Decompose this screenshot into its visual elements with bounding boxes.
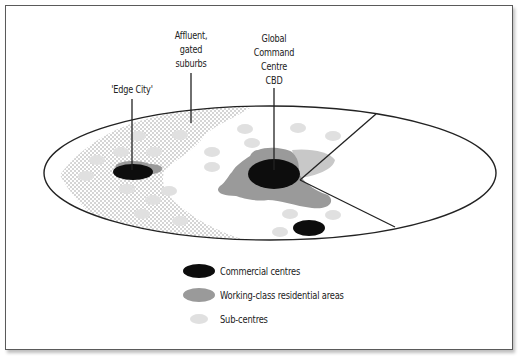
label-cbd: Global Command Centre CBD [240,31,309,87]
label-edge-city: 'Edge City' [98,82,167,96]
affluent-line-2: gated [157,42,226,56]
sector-line-upper [300,114,376,180]
legend-label-working-class: Working-class residential areas [220,289,344,302]
cbd-line-1: Global [240,31,309,45]
label-affluent-suburbs: Affluent, gated suburbs [157,28,226,70]
legend-swatch-working-class [183,288,215,302]
legend-swatch-commercial [183,264,215,278]
legend-label-sub-centres: Sub-centres [220,313,268,326]
edge-city-text: 'Edge City' [111,83,153,95]
commercial-centre-edge-city [113,164,153,180]
affluent-line-3: suburbs [157,56,226,70]
commercial-centre-south [293,220,325,236]
cbd-line-4: CBD [240,73,309,87]
cbd-line-3: Centre [240,59,309,73]
affluent-line-1: Affluent, [157,28,226,42]
legend-swatch-sub-centre [190,314,208,324]
legend-label-commercial: Commercial centres [220,265,300,278]
cbd-line-2: Command [240,45,309,59]
